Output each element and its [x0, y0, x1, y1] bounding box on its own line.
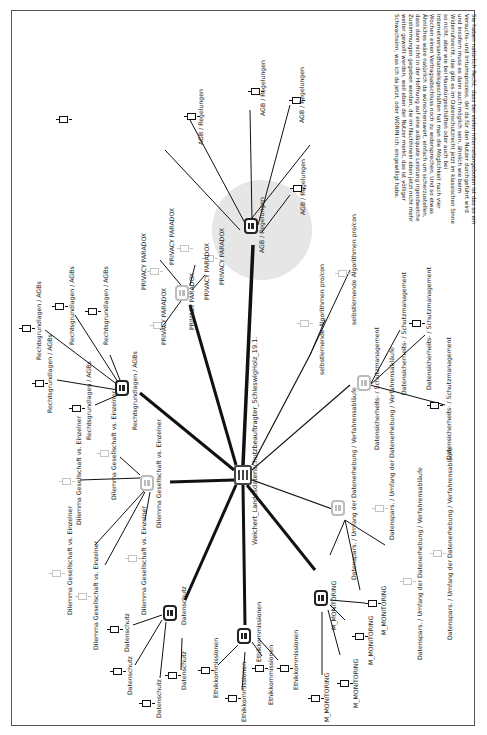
hub-agb-label: AGB / Regelungen: [258, 197, 265, 253]
leaf-label: AGB / Regelungen: [298, 67, 305, 123]
leaf-label: Datenspars. / Umfang der Datenerhebung /…: [446, 447, 453, 640]
leaf-node-icon[interactable]: [355, 633, 364, 640]
leaf-node-icon[interactable]: [433, 550, 442, 557]
central-topic-node[interactable]: [234, 465, 252, 485]
hub-rechtsgrundlagen-label: Rechtsgrundlagen / AGBs: [131, 351, 138, 430]
leaf-node-icon[interactable]: [311, 695, 320, 702]
leaf-label: M_MONITORING: [323, 673, 330, 722]
leaf-node-icon[interactable]: [430, 402, 439, 409]
hub-datensparsamkeit[interactable]: [331, 500, 345, 516]
leaf-node-icon[interactable]: [35, 380, 44, 387]
leaf-label: Datenschutz: [123, 613, 130, 652]
leaf-node-icon[interactable]: [228, 695, 237, 702]
hub-ethik-label: Ethikkommissionen: [255, 602, 262, 662]
leaf-node-icon[interactable]: [78, 593, 87, 600]
hub-monitoring-label: M_MONITORING: [330, 581, 337, 630]
leaf-label: Ethikkommissionen: [292, 630, 299, 690]
leaf-label: Datenspars. / Umfang der Datenerhebung /…: [388, 347, 395, 540]
note-paragraph: Sie haben natürlich Recht, dass bei viel…: [393, 14, 477, 224]
leaf-node-icon[interactable]: [187, 113, 196, 120]
leaf-node-icon[interactable]: [22, 325, 31, 332]
leaf-label: Rechtsgrundlagen / AGBs: [46, 334, 53, 413]
leaf-node-icon[interactable]: [338, 270, 347, 277]
leaf-label: PRIVACY PARADOX: [160, 288, 167, 345]
leaf-node-icon[interactable]: [62, 478, 71, 485]
leaf-label: AGB / Regelungen: [197, 89, 204, 145]
leaf-label: PRIVACY PARADOX: [218, 228, 225, 285]
hub-ethikkommissionen[interactable]: [237, 628, 251, 644]
leaf-label: Ethikkommissionen: [267, 645, 274, 705]
leaf-label: Rechtsgrundlagen / AGBs: [102, 266, 109, 345]
hub-monitoring[interactable]: [314, 590, 328, 606]
leaf-label: Rechtsgrundlagen / AGBs: [35, 281, 42, 360]
leaf-label: AGB / Regelungen: [299, 159, 306, 215]
leaf-label: Datensicherheits- / Schutzmanagement: [445, 337, 452, 460]
leaf-node-icon[interactable]: [100, 450, 109, 457]
hub-datensicherheit[interactable]: [357, 375, 371, 391]
leaf-label: M_MONITORING: [367, 616, 374, 665]
leaf-label: Datenschutz: [180, 651, 187, 690]
leaf-node-icon[interactable]: [300, 320, 309, 327]
leaf-node-icon[interactable]: [150, 268, 159, 275]
hub-agb-regelungen[interactable]: [244, 218, 258, 234]
hub-dilemma-label: Dilemma Gesellschaft vs. Einzelner: [155, 419, 162, 528]
leaf-label: Rechtsgrundlagen / AGBs: [68, 266, 75, 345]
leaf-node-icon[interactable]: [113, 668, 122, 675]
leaf-label: Rechtsgrundlagen / AGBs: [85, 361, 92, 440]
leaf-node-icon[interactable]: [88, 308, 97, 315]
leaf-node-icon[interactable]: [403, 578, 412, 585]
hub-datenschutz-label: Datenschutz: [180, 586, 187, 625]
leaf-node-icon[interactable]: [110, 626, 119, 633]
leaf-label: M_MONITORING: [380, 586, 387, 635]
hub-datenspars-label: Datenspars. / Umfang der Datenerhebung /…: [350, 387, 357, 580]
leaf-label: Ethikkommissionen: [240, 662, 247, 722]
leaf-node-icon[interactable]: [128, 555, 137, 562]
leaf-node-icon[interactable]: [180, 245, 189, 252]
hub-datenschutz[interactable]: [163, 605, 177, 621]
leaf-label: Datenschutz: [155, 679, 162, 718]
leaf-label: PRIVACY PARADOX: [203, 243, 210, 300]
leaf-node-icon[interactable]: [368, 600, 377, 607]
leaf-label: selbstlernende Algorithmen pro/con: [318, 264, 325, 375]
hub-privacy-paradox[interactable]: [175, 285, 189, 301]
note-node-icon[interactable]: [59, 116, 68, 123]
hub-datensicherheit-label: Datensicherheits- / Schutzmanagement: [373, 327, 380, 450]
leaf-node-icon[interactable]: [168, 672, 177, 679]
leaf-label: Dilemma Gesellschaft vs. Einzelner: [75, 416, 82, 525]
hub-privacy-label: PRIVACY PARADOX: [188, 273, 195, 330]
leaf-label: Datensicherheits- / Schutzmanagement: [425, 267, 432, 390]
leaf-node-icon[interactable]: [142, 700, 151, 707]
central-topic-label: Weichert_Landesdatenschutzbeauftragter_S…: [252, 337, 259, 545]
leaf-label: Ethikkommissionen: [212, 638, 219, 698]
leaf-node-icon[interactable]: [72, 405, 81, 412]
leaf-node-icon[interactable]: [52, 570, 61, 577]
leaf-node-icon[interactable]: [340, 680, 349, 687]
hub-rechtsgrundlagen[interactable]: [115, 380, 129, 396]
leaf-label: selbstlernende Algorithmen pro/con: [350, 214, 357, 325]
leaf-label: Datensicherheits- / Schutzmanagement: [400, 272, 407, 395]
leaf-node-icon[interactable]: [375, 505, 384, 512]
leaf-label: Datenspars. / Umfang der Datenerhebung /…: [416, 467, 423, 660]
leaf-label: Dilemma Gesellschaft vs. Einzelner: [66, 506, 73, 615]
leaf-label: Dilemma Gesellschaft vs. Einzelner: [110, 391, 117, 500]
leaf-node-icon[interactable]: [412, 320, 421, 327]
leaf-label: Dilemma Gesellschaft vs. Einzelner: [140, 506, 147, 615]
leaf-node-icon[interactable]: [255, 665, 264, 672]
leaf-node-icon[interactable]: [280, 665, 289, 672]
leaf-label: AGB / Regelungen: [259, 60, 266, 116]
hub-dilemma[interactable]: [140, 475, 154, 491]
leaf-label: PRIVACY PARADOX: [140, 233, 147, 290]
leaf-label: Dilemma Gesellschaft vs. Einzelner: [92, 541, 99, 650]
leaf-label: Datenschutz: [126, 656, 133, 695]
leaf-node-icon[interactable]: [201, 667, 210, 674]
leaf-label: M_MONITORING: [352, 659, 359, 708]
leaf-label: PRIVACY PARADOX: [168, 208, 175, 265]
leaf-node-icon[interactable]: [55, 303, 64, 310]
